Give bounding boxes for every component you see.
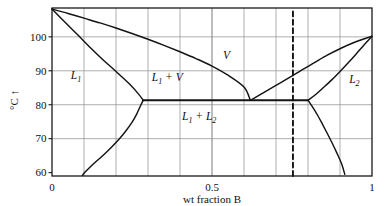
phase-diagram-svg: 6070809010000.51wt fraction B°C ↑L1L1 + … bbox=[0, 0, 392, 206]
solubility-curve-left bbox=[82, 100, 143, 175]
x-tick-label: 1 bbox=[369, 181, 375, 193]
region-L1-plus-V: L1 + V bbox=[151, 71, 185, 86]
vapor-curve-left bbox=[52, 9, 250, 100]
x-tick-label: 0 bbox=[49, 181, 55, 193]
y-tick-label: 70 bbox=[36, 132, 48, 144]
region-L1-plus-L2: L1 + L2 bbox=[181, 110, 216, 125]
solubility-curve-right bbox=[308, 100, 345, 174]
y-axis-title: °C ↑ bbox=[8, 90, 20, 110]
region-L2: L2 bbox=[348, 73, 359, 88]
vapor-curve-right bbox=[250, 36, 372, 100]
region-L1: L1 bbox=[70, 69, 81, 84]
y-tick-label: 80 bbox=[36, 99, 48, 111]
y-tick-label: 100 bbox=[30, 31, 47, 43]
x-tick-label: 0.5 bbox=[205, 181, 219, 193]
x-axis-title: wt fraction B bbox=[183, 193, 241, 205]
y-tick-label: 60 bbox=[36, 166, 48, 178]
phase-diagram-figure: 6070809010000.51wt fraction B°C ↑L1L1 + … bbox=[0, 0, 392, 206]
y-tick-label: 90 bbox=[36, 65, 48, 77]
region-V: V bbox=[223, 49, 232, 61]
